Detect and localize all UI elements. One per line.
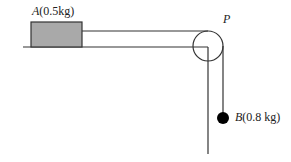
block-a	[31, 22, 82, 47]
label-pulley: P	[223, 12, 230, 27]
ball-b	[217, 112, 229, 124]
label-block-a: A(0.5kg)	[32, 4, 74, 19]
label-ball-b: B(0.8 kg)	[235, 110, 280, 125]
pulley-diagram	[0, 0, 291, 162]
